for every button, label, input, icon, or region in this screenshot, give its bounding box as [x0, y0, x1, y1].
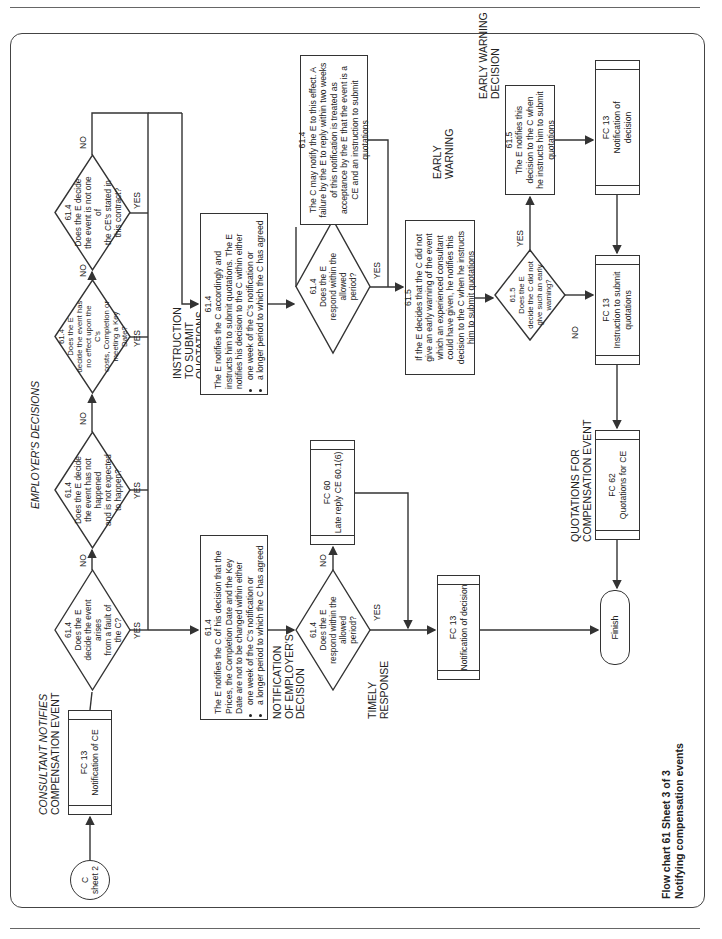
- label-no: NO: [78, 554, 88, 567]
- fc13-notification-of-decision: FC 13 Notification of decision: [437, 575, 480, 680]
- decision-no-early-warning: 61.5 Does the E decide the C did not giv…: [495, 250, 565, 340]
- box-instruct-quotations: 61.4 The E notifies the C accordingly an…: [200, 213, 268, 395]
- flowchart-canvas: CONSULTANT NOTIFIES COMPENSATION EVENT E…: [0, 0, 722, 939]
- section-timely-response: TIMELY RESPONSE: [367, 661, 390, 719]
- label-no: NO: [78, 264, 88, 277]
- box-notify-decision-unchanged: 61.4 The E notifies the C of his decisio…: [200, 535, 268, 720]
- section-consultant-notifies: CONSULTANT NOTIFIES COMPENSATION EVENT: [38, 693, 61, 815]
- decision-respond-in-time-2: 61.4 Does the E respond within the allow…: [296, 220, 370, 353]
- fc62-quotations-for-ce: FC 62 Quotations for CE: [595, 430, 640, 540]
- label-yes: YES: [515, 230, 525, 247]
- section-employers-decisions: EMPLOYER'S DECISIONS: [30, 381, 42, 509]
- label-yes: YES: [132, 482, 142, 499]
- label-yes: YES: [132, 192, 142, 209]
- label-no: NO: [570, 326, 580, 339]
- box-consultant-may-notify: 61.4 The C may notify the E to this effe…: [300, 55, 368, 225]
- label-yes: YES: [132, 330, 142, 347]
- decision-not-happened: 61.4 Does the E decide the event has not…: [55, 432, 130, 548]
- box-early-warning: 61.5 If the E decides that the C did not…: [405, 220, 475, 375]
- label-yes: YES: [132, 622, 142, 639]
- box-early-warning-notify: 61.5 The E notifies this decision to the…: [505, 85, 555, 195]
- finish-terminator: Finish: [600, 590, 630, 665]
- section-early-warning: EARLY WARNING: [432, 129, 455, 179]
- label-yes: YES: [372, 262, 382, 279]
- figure-caption: Flow chart 61 Sheet 3 of 3 Notifying com…: [660, 743, 686, 899]
- fc13-notification-of-ce: FC 13 Notification of CE: [68, 710, 112, 815]
- section-early-warning-decision: EARLY WARNING DECISION: [478, 12, 501, 99]
- decision-respond-in-time-1: 61.4 Does the E respond within the allow…: [296, 570, 370, 690]
- start-connector-sheet-2: C sheet 2: [70, 860, 110, 900]
- label-no: NO: [78, 136, 88, 149]
- section-quotations-for-ce: QUOTATIONS FOR COMPENSATION EVENT: [570, 420, 593, 542]
- fc60-late-reply: FC 60 Late reply CE 60.1(6): [310, 440, 355, 545]
- label-yes: YES: [372, 604, 382, 621]
- fc13-instruction-to-submit-quotations: FC 13 Instruction to submit quotations: [595, 255, 640, 365]
- label-no: NO: [318, 554, 328, 567]
- decision-fault-of-consultant: 61.4 Does the E decide the event arises …: [55, 570, 130, 690]
- fc13-notification-of-decision-right: FC 13 Notification of decision: [595, 60, 640, 195]
- decision-no-effect: 61.4 Does the E decide the event has no …: [55, 280, 130, 393]
- decision-not-a-ce: 61.4 Does the E decide the event is not …: [55, 155, 130, 270]
- label-no: NO: [78, 412, 88, 425]
